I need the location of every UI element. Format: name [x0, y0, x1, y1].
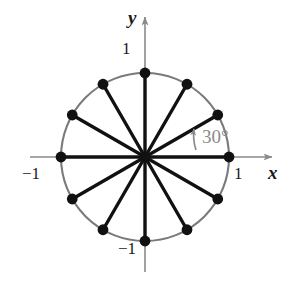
x-tick-label-positive: 1 [234, 165, 243, 182]
point-270deg [140, 236, 151, 247]
point-0deg [224, 152, 235, 163]
point-30deg [212, 110, 223, 121]
unit-circle-figure: y x 1 −1 1 −1 30° [0, 0, 291, 286]
point-240deg [98, 224, 109, 235]
x-axis-label: x [268, 163, 278, 182]
point-90deg [140, 68, 151, 79]
point-180deg [56, 152, 67, 163]
x-tick-label-negative: −1 [22, 165, 40, 182]
point-120deg [98, 79, 109, 90]
angle-measure-label: 30° [202, 127, 229, 146]
y-tick-label-positive: 1 [122, 40, 131, 57]
point-210deg [67, 194, 78, 205]
point-60deg [182, 79, 193, 90]
y-axis-label: y [128, 8, 136, 27]
diagram-canvas [0, 0, 291, 286]
angle-arc-arrow [194, 129, 196, 150]
y-tick-label-negative: −1 [118, 240, 136, 257]
point-center [140, 152, 150, 162]
point-150deg [67, 110, 78, 121]
point-300deg [182, 224, 193, 235]
point-330deg [212, 194, 223, 205]
